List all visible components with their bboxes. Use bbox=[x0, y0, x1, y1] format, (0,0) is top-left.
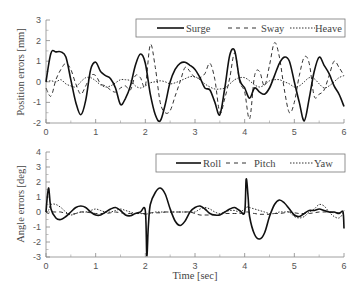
x-tick-label: 4 bbox=[242, 261, 247, 271]
legend-yaw: Yaw bbox=[314, 158, 333, 169]
x-tick-label: 1 bbox=[93, 261, 98, 271]
angle-ylabel: Angle errors [deg] bbox=[15, 165, 26, 243]
legend-surge: Surge bbox=[186, 23, 211, 34]
angle-errors-plot: -3-2-1012340123456 Angle errors [deg] Ro… bbox=[15, 147, 347, 271]
y-tick-label: 1 bbox=[36, 56, 41, 66]
x-tick-label: 5 bbox=[292, 127, 297, 137]
angle-series bbox=[46, 179, 344, 256]
time-xlabel: Time [sec] bbox=[173, 270, 218, 281]
y-tick-label: 0 bbox=[36, 207, 41, 217]
y-tick-label: -2 bbox=[33, 237, 41, 247]
x-tick-label: 1 bbox=[93, 127, 98, 137]
y-tick-label: 3 bbox=[36, 15, 41, 25]
y-tick-label: -1 bbox=[33, 97, 41, 107]
series-line-heave bbox=[46, 76, 344, 90]
y-tick-label: 2 bbox=[36, 36, 41, 46]
legend-roll: Roll bbox=[203, 158, 221, 169]
x-tick-label: 2 bbox=[143, 261, 148, 271]
legend-heave: Heave bbox=[315, 23, 342, 34]
series-line-roll bbox=[46, 179, 344, 256]
legend-pitch: Pitch bbox=[254, 158, 276, 169]
position-ylabel: Position errors [mm] bbox=[15, 28, 26, 116]
x-tick-label: 2 bbox=[143, 127, 148, 137]
y-tick-label: -3 bbox=[33, 252, 41, 262]
series-line-surge bbox=[46, 49, 344, 122]
x-tick-label: 3 bbox=[192, 127, 197, 137]
position-legend: Surge Sway Heave bbox=[136, 19, 345, 37]
y-tick-label: 0 bbox=[36, 77, 41, 87]
position-series bbox=[46, 43, 344, 122]
series-line-sway bbox=[46, 43, 344, 120]
x-tick-label: 5 bbox=[292, 261, 297, 271]
x-tick-label: 0 bbox=[43, 261, 48, 271]
y-tick-label: 2 bbox=[36, 177, 41, 187]
figure: -2-101230123456 Position errors [mm] Sur… bbox=[0, 0, 362, 301]
y-tick-label: -1 bbox=[33, 222, 41, 232]
legend-sway: Sway bbox=[261, 23, 285, 34]
x-tick-label: 4 bbox=[242, 127, 247, 137]
y-tick-label: 1 bbox=[36, 192, 41, 202]
angle-legend: Roll Pitch Yaw bbox=[156, 154, 345, 172]
y-tick-label: 3 bbox=[36, 162, 41, 172]
y-tick-label: 4 bbox=[36, 147, 41, 157]
x-tick-label: 0 bbox=[43, 127, 48, 137]
x-tick-label: 6 bbox=[341, 127, 346, 137]
x-tick-label: 6 bbox=[341, 261, 346, 271]
position-errors-plot: -2-101230123456 Position errors [mm] Sur… bbox=[15, 15, 347, 137]
y-tick-label: -2 bbox=[33, 118, 41, 128]
